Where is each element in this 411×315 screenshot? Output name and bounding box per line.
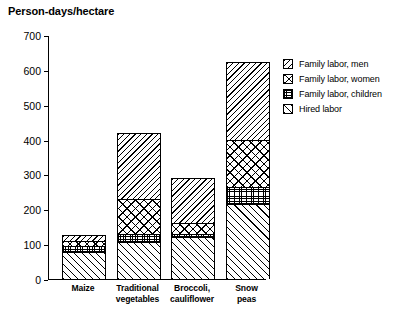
x-axis-labels: MaizeTraditionalvegetablesBroccoli,cauli… <box>48 283 267 315</box>
bar-segment[interactable] <box>118 133 160 199</box>
bar-segment[interactable] <box>172 178 214 223</box>
y-axis-tick-label: 600 <box>23 66 41 77</box>
bar-segment[interactable] <box>227 204 269 279</box>
legend-label: Hired labor <box>299 104 342 114</box>
y-axis-tick-label: 700 <box>23 31 41 42</box>
bar-segment[interactable] <box>63 235 105 240</box>
y-axis-tick-label: 500 <box>23 100 41 111</box>
x-axis-line <box>48 279 266 280</box>
y-axis-tick <box>44 106 48 107</box>
y-axis-tick-label: 300 <box>23 170 41 181</box>
bar-segment[interactable] <box>63 241 105 246</box>
x-axis-label: Snowpeas <box>208 283 286 304</box>
page-title: Person-days/hectare <box>8 5 114 17</box>
bar-segment[interactable] <box>227 62 269 139</box>
y-axis-tick <box>44 36 48 37</box>
bar-segment[interactable] <box>63 246 105 252</box>
y-axis-tick-label: 400 <box>23 135 41 146</box>
y-axis-tick <box>44 210 48 211</box>
legend-item[interactable]: Family labor, men <box>283 56 411 71</box>
legend-swatch-icon <box>283 59 293 69</box>
x-axis-label-line: Snow <box>208 283 286 294</box>
legend-label: Family labor, children <box>299 89 382 99</box>
y-axis-tick <box>44 141 48 142</box>
chart-root: Person-days/hectare 01002003004005006007… <box>0 0 411 315</box>
legend-item[interactable]: Family labor, women <box>283 71 411 86</box>
bar-broccoli-cauliflower[interactable] <box>171 178 215 279</box>
legend-label: Family labor, women <box>299 74 380 84</box>
y-axis-tick-label: 0 <box>35 275 41 286</box>
legend-swatch-icon <box>283 104 293 114</box>
legend-swatch-icon <box>283 89 293 99</box>
y-axis-tick <box>44 245 48 246</box>
x-axis-label-line: peas <box>208 294 286 305</box>
bar-segment[interactable] <box>227 187 269 204</box>
bar-segment[interactable] <box>227 140 269 188</box>
bar-segment[interactable] <box>118 242 160 279</box>
plot-area: 0100200300400500600700 <box>48 36 266 280</box>
bar-segment[interactable] <box>172 223 214 233</box>
bar-segment[interactable] <box>172 234 214 237</box>
bar-traditional-vegetables[interactable] <box>117 133 161 279</box>
legend-swatch-icon <box>283 74 293 84</box>
legend-item[interactable]: Family labor, children <box>283 86 411 101</box>
y-axis-tick-label: 200 <box>23 205 41 216</box>
legend-item[interactable]: Hired labor <box>283 101 411 116</box>
bar-segment[interactable] <box>118 199 160 234</box>
y-axis-tick <box>44 71 48 72</box>
bar-segment[interactable] <box>118 234 160 243</box>
bar-group <box>49 36 266 279</box>
y-axis-tick <box>44 175 48 176</box>
bar-segment[interactable] <box>172 237 214 279</box>
legend: Family labor, menFamily labor, womenFami… <box>283 56 411 116</box>
bar-snow-peas[interactable] <box>226 62 270 279</box>
legend-label: Family labor, men <box>299 59 368 69</box>
bar-segment[interactable] <box>63 252 105 279</box>
bar-maize[interactable] <box>62 235 106 279</box>
y-axis-tick <box>44 280 48 281</box>
y-axis-tick-label: 100 <box>23 240 41 251</box>
